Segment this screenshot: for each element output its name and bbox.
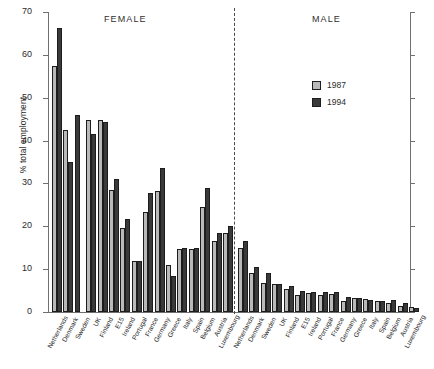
- bar-group: [249, 267, 259, 312]
- bar-1994: [368, 300, 373, 312]
- y-tick-mark: [43, 98, 48, 99]
- y-tick-label: 0: [10, 307, 32, 316]
- y-tick-mark-right: [410, 269, 415, 270]
- y-tick-label: 60: [10, 50, 32, 59]
- bar-1994: [194, 248, 199, 312]
- bar-group: [109, 179, 119, 312]
- bar-1994: [243, 241, 248, 312]
- y-tick-mark: [43, 183, 48, 184]
- bar-1994: [254, 267, 259, 312]
- bar-1994: [205, 188, 210, 312]
- y-tick-mark: [43, 269, 48, 270]
- bar-group: [318, 292, 328, 312]
- bar-group: [409, 307, 419, 312]
- bar-1994: [91, 134, 96, 312]
- bar-1994: [217, 233, 222, 312]
- y-tick-label: 10: [10, 264, 32, 273]
- legend: 1987 1994: [312, 80, 346, 114]
- bar-group: [386, 300, 396, 312]
- bar-1994: [380, 301, 385, 312]
- y-tick-label: 40: [10, 136, 32, 145]
- bar-group: [329, 292, 339, 312]
- bar-group: [295, 291, 305, 312]
- bar-1994: [125, 219, 130, 312]
- bar-1994: [266, 273, 271, 312]
- bar-group: [272, 284, 282, 312]
- x-axis-baseline: [48, 312, 411, 313]
- bar-1994: [357, 298, 362, 312]
- bar-1994: [311, 292, 316, 312]
- y-tick-mark-right: [410, 12, 415, 13]
- bar-group: [284, 286, 294, 312]
- bar-1994: [148, 193, 153, 312]
- y-tick-mark-right: [410, 55, 415, 56]
- bar-1994: [289, 286, 294, 312]
- y-tick-mark: [43, 12, 48, 13]
- bar-group: [189, 248, 199, 312]
- bar-1994: [323, 292, 328, 312]
- bar-group: [238, 241, 248, 312]
- legend-label-1994: 1994: [327, 97, 346, 107]
- bar-1994: [57, 28, 62, 312]
- bar-group: [363, 299, 373, 312]
- bar-1994: [414, 308, 419, 312]
- bar-group: [86, 120, 96, 312]
- y-tick-label: 20: [10, 221, 32, 230]
- bar-1994: [103, 122, 108, 312]
- bar-group: [63, 130, 73, 312]
- y-tick-mark-right: [410, 183, 415, 184]
- bar-1994: [334, 292, 339, 312]
- y-tick-label: 70: [10, 7, 32, 16]
- bar-group: [375, 301, 385, 312]
- bar-1994: [137, 261, 142, 312]
- bar-group: [143, 193, 153, 312]
- bar-1994: [346, 297, 351, 312]
- y-tick-mark-right: [410, 226, 415, 227]
- y-tick-mark: [43, 141, 48, 142]
- legend-item-1987: 1987: [312, 80, 346, 90]
- legend-swatch-1987: [312, 81, 321, 90]
- bar-group: [132, 261, 142, 312]
- y-axis-ticks: 010203040506070: [4, 0, 32, 369]
- bar-group: [352, 298, 362, 312]
- bar-1994: [277, 284, 282, 312]
- bar-group: [120, 219, 130, 312]
- y-tick-mark: [43, 55, 48, 56]
- bar-group: [223, 226, 233, 312]
- y-tick-mark: [43, 226, 48, 227]
- bar-group: [155, 168, 165, 312]
- bar-group: [261, 273, 271, 312]
- bar-1994: [75, 115, 80, 312]
- legend-label-1987: 1987: [327, 80, 346, 90]
- y-tick-label: 30: [10, 178, 32, 187]
- bar-1994: [391, 300, 396, 312]
- y-tick-mark-right: [410, 98, 415, 99]
- legend-swatch-1994: [312, 98, 321, 107]
- bar-group: [200, 188, 210, 312]
- bar-group: [341, 297, 351, 312]
- bar-1994: [228, 226, 233, 312]
- legend-item-1994: 1994: [312, 97, 346, 107]
- bar-group: [306, 292, 316, 312]
- bar-1994: [403, 303, 408, 312]
- y-tick-mark-right: [410, 312, 415, 313]
- bar-group: [398, 303, 408, 312]
- bar-1994: [68, 162, 73, 312]
- chart-root: % total employment 010203040506070 FEMAL…: [0, 0, 434, 369]
- bar-group: [52, 28, 62, 312]
- bar-1994: [182, 248, 187, 312]
- bar-group: [166, 265, 176, 312]
- y-tick-label: 50: [10, 93, 32, 102]
- bar-1994: [160, 168, 165, 312]
- bar-group: [98, 120, 108, 312]
- bar-group: [177, 248, 187, 312]
- bar-1994: [114, 179, 119, 312]
- bar-1994: [300, 291, 305, 312]
- bar-group: [212, 233, 222, 312]
- bar-1994: [171, 276, 176, 312]
- y-tick-mark-right: [410, 141, 415, 142]
- bar-group: [75, 115, 80, 312]
- y-tick-mark: [43, 312, 48, 313]
